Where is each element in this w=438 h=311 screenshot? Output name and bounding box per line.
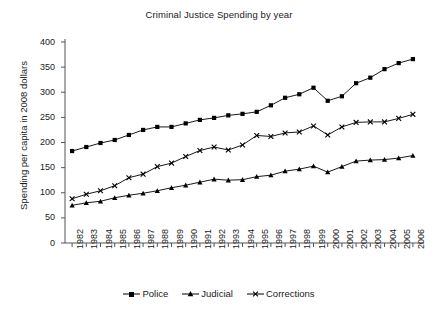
x-axis-tick-label: 1986 <box>133 229 142 249</box>
data-point-police <box>155 125 159 129</box>
data-point-police <box>340 94 344 98</box>
data-point-corrections <box>240 143 245 148</box>
series-line-police <box>72 59 413 151</box>
series-line-corrections <box>72 114 413 198</box>
legend-item-police: Police <box>123 288 168 299</box>
data-point-judicial <box>325 170 330 175</box>
data-point-police <box>70 149 74 153</box>
legend-label-police: Police <box>142 288 168 299</box>
y-axis-tick-label: 400 <box>25 38 55 47</box>
data-point-police <box>127 133 131 137</box>
data-point-police <box>84 145 88 149</box>
legend-label-judicial: Judicial <box>201 288 233 299</box>
legend-marker-cross-icon <box>247 289 264 299</box>
data-point-corrections <box>112 183 117 188</box>
x-axis-tick-label: 1999 <box>318 229 327 249</box>
x-axis-tick-label: 1990 <box>190 229 199 249</box>
x-axis-tick-label: 2002 <box>360 229 369 249</box>
x-axis-tick-label: 1996 <box>275 229 284 249</box>
data-point-police <box>98 141 102 145</box>
data-point-police <box>169 125 173 129</box>
y-axis-tick-label: 0 <box>25 239 55 248</box>
data-point-police <box>226 113 230 117</box>
x-axis-tick-label: 1995 <box>261 229 270 249</box>
data-point-judicial <box>339 164 344 169</box>
x-axis-tick-label: 1992 <box>218 229 227 249</box>
y-axis-tick-label: 200 <box>25 138 55 147</box>
data-point-corrections <box>311 124 316 129</box>
x-axis-tick-label: 1988 <box>161 229 170 249</box>
x-axis-tick-label: 1998 <box>303 229 312 249</box>
data-point-corrections <box>411 112 416 117</box>
data-point-police <box>141 128 145 132</box>
x-axis-tick-label: 1997 <box>289 229 298 249</box>
data-point-police <box>311 86 315 90</box>
x-axis-tick-label: 2003 <box>374 229 383 249</box>
legend-marker-triangle-icon <box>182 289 199 299</box>
x-axis-tick-label: 2001 <box>346 229 355 249</box>
legend-marker-square-icon <box>123 289 140 299</box>
data-point-police <box>382 67 386 71</box>
y-axis-tick-label: 350 <box>25 63 55 72</box>
data-point-corrections <box>70 196 75 201</box>
data-point-police <box>283 96 287 100</box>
x-axis-tick-label: 1984 <box>105 229 114 249</box>
legend-item-judicial: Judicial <box>182 288 233 299</box>
x-axis-tick-label: 1993 <box>232 229 241 249</box>
data-point-police <box>368 76 372 80</box>
data-point-police <box>411 57 415 61</box>
data-point-police <box>354 81 358 85</box>
data-point-corrections <box>340 125 345 130</box>
x-axis-tick-label: 2004 <box>389 229 398 249</box>
data-point-police <box>184 121 188 125</box>
x-axis-tick-label: 1989 <box>176 229 185 249</box>
x-axis-tick-label: 1983 <box>90 229 99 249</box>
y-axis-tick-label: 300 <box>25 88 55 97</box>
data-point-police <box>397 61 401 65</box>
chart-container: Criminal Justice Spending by year Spendi… <box>0 0 438 311</box>
data-point-police <box>269 103 273 107</box>
data-point-police <box>113 138 117 142</box>
y-axis-tick-label: 100 <box>25 188 55 197</box>
data-point-police <box>212 116 216 120</box>
x-axis-tick-label: 2000 <box>332 229 341 249</box>
x-axis-tick-label: 1982 <box>76 229 85 249</box>
x-axis-tick-label: 1991 <box>204 229 213 249</box>
x-axis-tick-label: 2006 <box>417 229 426 249</box>
x-axis-tick-label: 1987 <box>147 229 156 249</box>
data-point-police <box>240 112 244 116</box>
chart-legend: Police Judicial Corrections <box>0 288 438 299</box>
data-point-police <box>297 92 301 96</box>
data-point-corrections <box>183 154 188 159</box>
data-point-judicial <box>410 153 415 158</box>
data-point-police <box>326 99 330 103</box>
x-axis-tick-label: 1985 <box>119 229 128 249</box>
x-axis-tick-label: 2005 <box>403 229 412 249</box>
data-point-police <box>255 110 259 114</box>
y-axis-tick-label: 250 <box>25 113 55 122</box>
y-axis-tick-label: 50 <box>25 213 55 222</box>
legend-label-corrections: Corrections <box>266 288 315 299</box>
legend-item-corrections: Corrections <box>247 288 315 299</box>
x-axis-tick-label: 1994 <box>247 229 256 249</box>
chart-plot-svg <box>0 0 438 311</box>
data-point-police <box>198 118 202 122</box>
y-axis-tick-label: 150 <box>25 163 55 172</box>
data-point-corrections <box>325 133 330 138</box>
data-point-judicial <box>311 164 316 169</box>
